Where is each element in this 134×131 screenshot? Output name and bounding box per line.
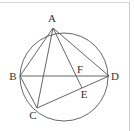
segments <box>20 28 109 108</box>
label-a: A <box>48 12 56 24</box>
point-labels: A B C D E F <box>9 12 119 121</box>
circumcircle <box>20 33 108 121</box>
label-e: E <box>81 88 88 100</box>
label-c: C <box>29 109 36 121</box>
label-f: F <box>77 63 83 75</box>
geometry-diagram: A B C D E F <box>0 0 134 131</box>
label-b: B <box>9 70 16 82</box>
segment-cd <box>37 76 109 108</box>
figure-frame: A B C D E F <box>0 0 134 131</box>
segment-ae <box>53 28 82 88</box>
label-d: D <box>111 70 119 82</box>
